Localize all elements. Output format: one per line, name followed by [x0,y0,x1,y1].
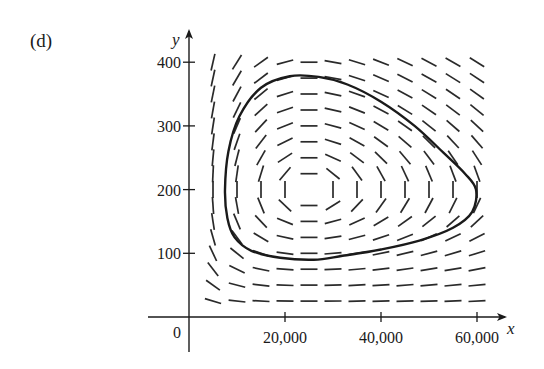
slope-mark [445,301,462,302]
slope-mark [211,54,215,71]
slope-mark [234,134,240,150]
slope-mark [233,55,242,69]
slope-mark [277,236,294,240]
slope-mark [422,90,436,99]
slope-mark [254,73,268,83]
slope-mark [422,105,436,115]
origin-label: 0 [173,324,181,341]
slope-mark [471,135,482,148]
x-tick-label: 40,000 [359,329,403,346]
slope-mark [326,168,339,179]
slope-mark [277,285,294,286]
slope-mark [258,198,264,214]
slope-mark [350,138,365,146]
slope-mark [233,87,241,102]
slope-mark [397,251,414,255]
slope-mark [447,136,459,148]
slope-mark [470,89,484,99]
slope-mark [447,120,460,131]
slope-mark [349,218,364,225]
slope-mark [325,236,342,239]
y-tick-label: 300 [157,118,181,135]
slope-mark [349,107,365,113]
slope-mark [469,234,484,242]
slope-mark [213,165,214,182]
slope-mark [376,199,386,213]
slope-mark [469,251,485,256]
slope-mark [397,74,412,82]
slope-mark [209,246,216,261]
slope-mark [255,215,267,227]
slope-mark [352,167,362,181]
slope-marks [205,54,486,304]
slope-mark [325,219,341,223]
slope-mark [445,268,462,271]
direction-field-chart: 20,00040,00060,000 100200300400 x y 0 [0,0,544,369]
slope-mark [212,133,214,150]
slope-mark [373,91,388,98]
slope-mark [277,60,293,64]
slope-mark [277,123,293,129]
slope-mark [421,301,438,302]
slope-mark [373,285,390,286]
slope-mark [205,299,221,304]
slope-mark [254,233,269,242]
slope-mark [375,152,387,164]
slope-mark [421,284,438,286]
slope-mark [229,283,245,287]
slope-mark [470,105,483,116]
slope-mark [450,166,456,182]
slope-mark [277,269,294,270]
slope-mark [422,216,435,227]
slope-mark [234,214,241,230]
slope-mark [374,122,389,131]
slope-mark [446,89,460,99]
slope-mark [374,137,388,147]
slope-mark [236,165,238,182]
slope-mark [377,166,385,181]
slope-mark [277,138,292,145]
slope-mark [255,104,268,116]
slope-mark [229,300,246,302]
slope-mark [373,252,390,255]
y-tick-label: 400 [157,54,181,71]
slope-mark [449,198,457,213]
slope-mark [325,285,342,286]
slope-mark [446,74,460,83]
slope-mark [349,60,365,65]
slope-mark [211,86,214,103]
slope-mark [471,216,483,228]
slope-mark [397,285,414,286]
slope-mark [325,253,342,254]
slope-mark [254,57,268,67]
slope-mark [445,234,460,241]
slope-mark [278,153,292,162]
slope-mark [398,217,412,227]
y-tick-label: 100 [157,245,181,262]
slope-mark [373,301,390,302]
slope-mark [373,75,389,82]
slope-mark [399,136,412,147]
slope-mark [325,154,341,161]
slope-mark [469,284,486,286]
x-tick-label: 60,000 [455,329,499,346]
slope-mark [426,166,433,182]
slope-mark [422,74,437,82]
slope-mark [212,213,215,230]
slope-mark [211,70,215,87]
slope-mark [397,301,414,302]
slope-mark [253,284,270,286]
x-tick-label: 20,000 [263,329,307,346]
slope-mark [374,217,389,226]
slope-mark [349,76,365,81]
slope-mark [446,58,461,67]
slope-mark [325,269,342,270]
slope-mark [351,199,363,211]
slope-mark [279,200,291,212]
slope-mark [236,197,239,214]
slope-mark [400,151,411,164]
slope-mark [471,120,483,132]
slope-mark [212,102,215,119]
slope-mark [397,234,413,240]
slope-mark [325,139,341,144]
